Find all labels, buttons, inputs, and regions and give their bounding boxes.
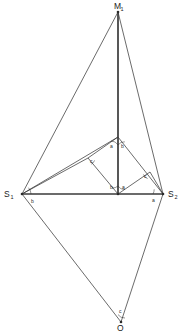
edge-s1-o xyxy=(22,194,121,322)
edge-s2-o xyxy=(121,194,163,322)
geometry-figure: M 1 S 1 S 2 O b a a b c c b a c xyxy=(0,0,185,334)
vertex-label-apex-subscript: 1 xyxy=(121,6,124,12)
angle-label-bottom-c: c xyxy=(119,308,122,314)
edge-group-thin xyxy=(22,12,163,322)
angle-label-group: b a a b c c b a c xyxy=(31,143,155,314)
angle-label-inner-top-a: a xyxy=(110,143,113,149)
edge-inner-right-s2 xyxy=(150,172,163,194)
angle-label-s1-b: b xyxy=(31,198,34,204)
figure-canvas: M 1 S 1 S 2 O b a a b c c b a c xyxy=(0,0,185,334)
edge-inner-left-inner-top xyxy=(88,137,118,158)
edge-m1-s2 xyxy=(118,12,163,194)
vertex-dot-center xyxy=(117,193,120,196)
vertex-label-right: S xyxy=(168,189,174,199)
vertex-dot-right xyxy=(162,193,165,196)
edge-m1-s1 xyxy=(22,12,118,194)
vertex-label-left-subscript: 1 xyxy=(11,194,14,200)
vertex-dot-left xyxy=(21,193,24,196)
edge-s1-inner-top xyxy=(22,137,118,194)
vertex-label-bottom: O xyxy=(117,323,124,333)
angle-label-center-a: a xyxy=(122,184,125,190)
arc-bottom-icon xyxy=(118,315,125,318)
vertex-dot-group xyxy=(21,11,165,324)
edge-s1-inner-left xyxy=(22,158,88,194)
vertex-dot-apex xyxy=(117,11,120,14)
vertex-label-right-subscript: 2 xyxy=(175,194,178,200)
vertex-label-left: S xyxy=(4,189,10,199)
angle-label-inner-top-b: b xyxy=(121,143,124,149)
angle-label-center-b: b xyxy=(110,184,113,190)
angle-label-s2-a: a xyxy=(152,197,155,203)
angle-arc-group xyxy=(29,141,155,318)
